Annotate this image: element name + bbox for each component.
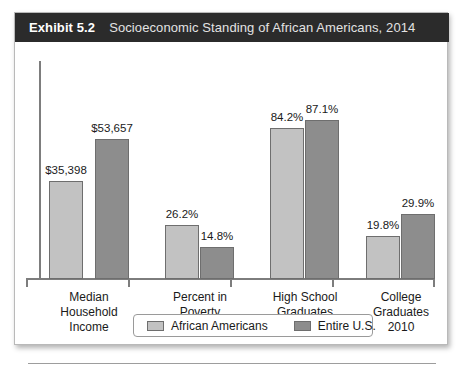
bar-african-americans-median-household-income	[49, 181, 83, 279]
legend-swatch-icon	[294, 321, 311, 331]
page-divider-rule	[28, 363, 436, 364]
x-axis-tick	[433, 280, 435, 287]
chart-legend: African Americans Entire U.S.	[133, 314, 373, 337]
legend-entry-african-americans: African Americans	[147, 319, 268, 333]
bar-chart-plot-area: $35,398 $53,657 26.2% 14.8% 84.2% 87.1% …	[15, 42, 449, 346]
category-label-median-household-income: Median Household Income	[39, 290, 139, 335]
legend-entry-entire-us: Entire U.S.	[294, 319, 376, 333]
exhibit-number-label: Exhibit 5.2	[29, 20, 95, 35]
bar-entire-us-percent-in-poverty	[200, 247, 234, 279]
category-label-line: Median	[39, 290, 139, 305]
category-label-line: High School	[255, 290, 355, 305]
bar-entire-us-college-graduates	[401, 214, 435, 279]
bar-african-americans-high-school-graduates	[270, 128, 304, 279]
exhibit-title: Socioeconomic Standing of African Americ…	[109, 20, 415, 35]
bar-value-label: $53,657	[69, 122, 155, 134]
legend-label: Entire U.S.	[318, 319, 376, 333]
bar-entire-us-high-school-graduates	[305, 120, 339, 279]
x-axis-tick	[332, 280, 334, 287]
bar-african-americans-college-graduates	[366, 236, 400, 279]
exhibit-frame: Exhibit 5.2 Socioeconomic Standing of Af…	[14, 12, 448, 345]
category-label-line: Percent in	[150, 290, 250, 305]
x-axis-tick	[26, 280, 28, 287]
x-axis-tick	[230, 280, 232, 287]
category-label-line: Household	[39, 305, 139, 320]
bar-value-label: 29.9%	[380, 197, 456, 209]
legend-label: African Americans	[171, 319, 268, 333]
category-label-line: College	[351, 290, 451, 305]
bar-value-label: 87.1%	[284, 103, 360, 115]
bar-value-label: 26.2%	[144, 208, 220, 220]
legend-swatch-icon	[147, 321, 164, 331]
bar-entire-us-median-household-income	[95, 139, 129, 279]
x-axis-tick	[128, 280, 130, 287]
exhibit-header: Exhibit 5.2 Socioeconomic Standing of Af…	[15, 13, 449, 42]
bar-value-label: 14.8%	[179, 230, 255, 242]
category-label-line: Income	[39, 320, 139, 335]
